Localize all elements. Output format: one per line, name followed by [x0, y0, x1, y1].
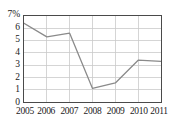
x-tick-label: 2010: [130, 106, 148, 117]
y-tick-label: 1: [15, 86, 20, 96]
line-chart: 7%6543210 2005200620072008200920102011: [0, 0, 177, 128]
x-axis: 2005200620072008200920102011: [0, 106, 177, 122]
x-tick-label: 2011: [150, 106, 167, 117]
y-tick-label: 6: [15, 23, 20, 33]
y-tick-label: 2: [15, 73, 20, 83]
y-tick-label: 7%: [8, 10, 20, 20]
y-tick-label: 5: [15, 35, 20, 45]
data-series-line: [24, 16, 161, 102]
x-tick-label: 2009: [107, 106, 125, 117]
x-tick-label: 2006: [37, 106, 55, 117]
x-tick-label: 2005: [16, 106, 34, 117]
x-tick-label: 2007: [60, 106, 78, 117]
y-tick-label: 4: [15, 48, 20, 58]
y-tick-label: 3: [15, 61, 20, 71]
y-axis: 7%6543210: [0, 15, 21, 103]
x-tick-label: 2008: [84, 106, 102, 117]
plot-area: [23, 15, 162, 103]
